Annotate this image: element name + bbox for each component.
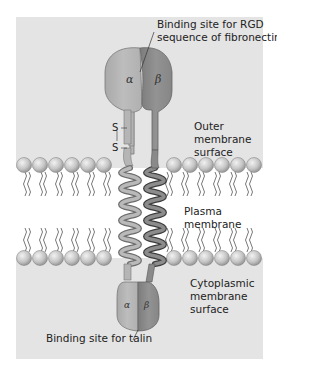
cytoplasmic-surface-label: Cytoplasmic membrane surface — [190, 277, 255, 316]
cyto-line3: surface — [190, 303, 255, 316]
rgd-label-line2: sequence of fibronectin — [157, 31, 277, 44]
cyto-line1: Cytoplasmic — [190, 277, 255, 290]
plasma-line1: Plasma — [184, 205, 241, 218]
disulfide-s1: S — [112, 121, 118, 134]
rgd-label-line1: Binding site for RGD — [157, 18, 277, 31]
alpha-label-bottom: α — [124, 300, 130, 310]
outer-line3: surface — [194, 146, 251, 159]
outer-line2: membrane — [194, 133, 251, 146]
beta-label-top: β — [155, 73, 161, 86]
outer-line1: Outer — [194, 120, 251, 133]
alpha-label-top: α — [126, 73, 133, 86]
rgd-binding-site-label: Binding site for RGD sequence of fibrone… — [157, 18, 277, 44]
disulfide-s2: S — [112, 141, 118, 154]
talin-binding-site-label: Binding site for talin — [46, 332, 152, 345]
beta-label-bottom: β — [144, 300, 149, 310]
plasma-membrane-label: Plasma membrane — [184, 205, 241, 231]
plasma-line2: membrane — [184, 218, 241, 231]
cyto-line2: membrane — [190, 290, 255, 303]
outer-membrane-surface-label: Outer membrane surface — [194, 120, 251, 159]
